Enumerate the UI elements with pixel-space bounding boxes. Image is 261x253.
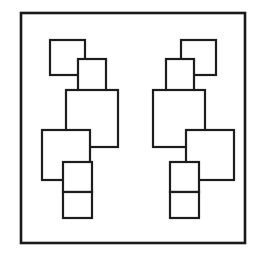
right-box-6-bottom-small [170,192,199,218]
left-box-6-bottom-small [63,192,92,218]
figure-drawing [0,0,261,253]
figure-canvas: Two mirrored clusters of overlapping rec… [0,0,261,253]
left-box-5-lower-small [63,162,92,192]
right-box-5-lower-small [170,162,199,192]
